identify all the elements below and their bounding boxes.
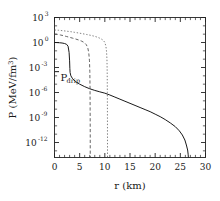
x-tick-label: 15 [124,162,136,172]
y-tick-label-exponent: -9 [41,110,47,117]
y-tick-label-exponent: -3 [41,60,47,67]
y-tick-label-mantissa: 10 [29,88,41,98]
x-axis-tick-labels: 051015202530 [52,162,212,172]
pressure-radius-figure: 051015202530 10310010-310-610-910-12 Pdr… [0,0,220,201]
y-axis-title: P (MeV/fm3) [7,57,18,119]
y-tick-label-mantissa: 10 [32,13,44,23]
x-tick-label: 0 [52,162,58,172]
x-tick-label: 20 [149,162,161,172]
x-tick-label: 5 [77,162,83,172]
curve-long-dashed-profile [55,34,91,157]
x-tick-label: 25 [175,162,187,172]
x-tick-label: 30 [200,162,212,172]
y-tick-label-mantissa: 10 [32,38,44,48]
y-tick-label-exponent: 0 [45,35,49,42]
y-tick-label-mantissa: 10 [29,63,41,73]
p-drip-label-subscript: drip [67,77,81,85]
y-tick-label-mantissa: 10 [29,113,41,123]
data-curves [55,30,189,158]
y-tick-label-exponent: -12 [38,135,48,142]
x-tick-label: 10 [99,162,111,172]
curve-dotted-profile [55,30,108,158]
y-axis-title-text: P (MeV/fm3) [7,57,18,119]
y-axis-tick-labels: 10310010-310-610-910-12 [25,10,48,147]
x-axis-title: r (km) [114,180,145,191]
y-tick-label-exponent: -6 [41,85,47,92]
y-tick-label-mantissa: 10 [25,138,37,148]
chart-canvas: 051015202530 10310010-310-610-910-12 Pdr… [0,0,220,201]
y-tick-label-exponent: 3 [45,10,49,17]
curve-solid-profile [55,43,189,158]
